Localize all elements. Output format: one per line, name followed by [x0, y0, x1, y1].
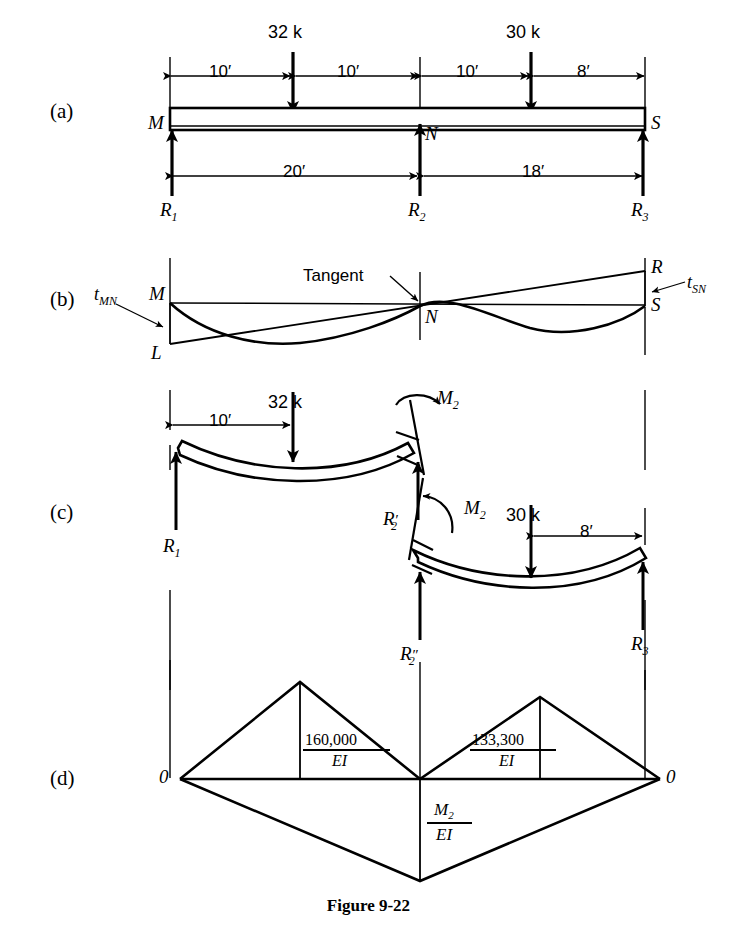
- figure-container: (a) 32 k 30 k 10′ 10′ 10′ 8′ 20′ 18′ M N…: [0, 0, 737, 935]
- dim-label-10ft-c: 10′: [209, 411, 231, 431]
- tangent-label-b: Tangent: [303, 266, 364, 286]
- ordinate-denominator-left-d: EI: [332, 752, 347, 770]
- moment-label-M2-lower: M2: [464, 497, 486, 523]
- tSN-leader-arrow: [652, 282, 685, 292]
- dim-label-8ft-1: 8′: [577, 62, 590, 82]
- panel-b: [116, 258, 685, 355]
- beam-segment-left-c: [178, 441, 414, 481]
- load-label-32k-c: 32 k: [268, 392, 302, 413]
- reaction-R2-base: R: [408, 199, 420, 220]
- panel-a: [170, 52, 645, 196]
- dim-label-20ft: 20′: [283, 162, 305, 182]
- joint-tick-right-upper: [413, 540, 433, 550]
- R3c-base: R: [631, 633, 643, 654]
- R1c-base: R: [163, 535, 175, 556]
- reference-chord-b: [170, 303, 645, 305]
- reaction-R2-sub: 2: [420, 210, 426, 224]
- dim-label-10ft-2: 10′: [337, 62, 359, 82]
- figure-9-22-svg: [0, 0, 737, 935]
- reaction-label-R3-c: R3: [631, 633, 649, 659]
- reaction-label-R3-a: R3: [631, 199, 649, 225]
- ordinate-numerator-left-d: 160,000: [305, 731, 357, 749]
- figure-caption: Figure 9-22: [0, 896, 737, 916]
- dim-label-10ft-3: 10′: [456, 62, 478, 82]
- panel-d: [170, 660, 660, 881]
- moment-arc-M2-lower: [423, 496, 452, 533]
- point-label-R-b: R: [651, 256, 663, 278]
- M2-upper-sub: 2: [453, 398, 459, 412]
- M2-lower-base: M: [464, 497, 480, 518]
- reaction-label-R1-c: R1: [163, 535, 181, 561]
- point-label-L-b: L: [151, 342, 162, 364]
- reaction-label-R2doubleprime-c: R″2: [400, 643, 415, 669]
- panel-label-d: (d): [50, 766, 75, 791]
- ordinate-numerator-right-d: 133,300: [472, 731, 524, 749]
- node-label-N-a: N: [425, 123, 438, 145]
- M2d-sub: 2: [448, 809, 454, 821]
- panel-label-b: (b): [50, 287, 75, 312]
- reaction-label-R1-a: R1: [160, 199, 178, 225]
- load-label-30k-a: 30 k: [506, 22, 540, 43]
- tangent-pointer-arrow: [390, 276, 418, 301]
- dim-label-8ft-c: 8′: [580, 522, 593, 542]
- moment-label-M2-upper: M2: [437, 387, 459, 413]
- reaction-R1-sub: 1: [172, 210, 178, 224]
- reaction-label-R2prime-c: R′2: [383, 508, 397, 534]
- ordinate-denominator-center-d: EI: [436, 825, 452, 845]
- node-label-S-a: S: [651, 112, 661, 134]
- tMN-sub: MN: [99, 294, 117, 308]
- M2d-base: M: [434, 800, 448, 819]
- reaction-R1-base: R: [160, 199, 172, 220]
- reaction-R3-base: R: [631, 199, 643, 220]
- point-label-N-b: N: [425, 306, 438, 328]
- point-label-M-b: M: [149, 283, 165, 305]
- dim-label-18ft: 18′: [522, 162, 544, 182]
- deviation-label-tMN: tMN: [94, 284, 117, 309]
- tSN-sub: SN: [692, 282, 706, 296]
- reaction-R3-sub: 3: [643, 210, 649, 224]
- M2-lower-sub: 2: [480, 508, 486, 522]
- R1c-sub: 1: [175, 546, 181, 560]
- R3c-sub: 3: [643, 644, 649, 658]
- R2pp-sub: 2: [409, 654, 415, 668]
- deviation-label-tSN: tSN: [687, 272, 706, 297]
- ordinate-numerator-center-d: M2: [434, 800, 454, 821]
- panel-label-c: (c): [50, 500, 73, 525]
- panel-label-a: (a): [50, 99, 73, 124]
- node-label-M-a: M: [148, 112, 164, 134]
- ordinate-denominator-right-d: EI: [499, 752, 514, 770]
- R2p-sub: 2: [391, 519, 397, 533]
- dim-label-10ft-1: 10′: [209, 62, 231, 82]
- tMN-leader-arrow: [116, 304, 163, 327]
- tangent-line-b: [170, 271, 645, 344]
- zero-label-left-d: 0: [159, 766, 169, 788]
- load-label-30k-c: 30 k: [506, 505, 540, 526]
- zero-label-right-d: 0: [666, 766, 676, 788]
- load-label-32k-a: 32 k: [268, 22, 302, 43]
- M2-upper-base: M: [437, 387, 453, 408]
- moment-arc-M2-upper: [396, 395, 440, 405]
- reaction-label-R2-a: R2: [408, 199, 426, 225]
- point-label-S-b: S: [651, 294, 661, 316]
